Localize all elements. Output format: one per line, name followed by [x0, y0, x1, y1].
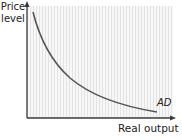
y-axis-label: Price level [0, 1, 26, 25]
y-axis-label-line2: level [0, 13, 26, 25]
ad-curve-label: AD [157, 97, 172, 108]
plot-area [27, 6, 173, 118]
aggregate-demand-chart: Price level AD Real output [0, 0, 182, 140]
chart-canvas [0, 0, 182, 140]
x-axis-label: Real output [118, 122, 179, 134]
y-axis-label-line1: Price [0, 1, 26, 13]
